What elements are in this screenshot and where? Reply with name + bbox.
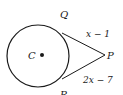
- point-q-label: Q: [60, 9, 68, 20]
- segment-rp-label: 2x − 7: [82, 75, 113, 85]
- circle-c: [7, 25, 69, 87]
- segment-qp-label: x − 1: [86, 29, 110, 39]
- center-label: C: [28, 50, 36, 61]
- tangent-segments-diagram: C Q P R x − 1 2x − 7: [0, 0, 123, 95]
- point-p-label: P: [106, 50, 114, 61]
- point-r-label: R: [59, 89, 68, 95]
- center-point-dot: [40, 53, 44, 57]
